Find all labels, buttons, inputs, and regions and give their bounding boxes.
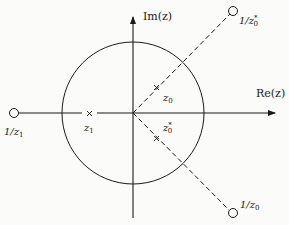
zero-inv-z0-conj-o-icon: [229, 7, 238, 16]
label-inv-z0-conj: 1/z*0: [239, 14, 258, 28]
ray-to-inv-z0: [133, 113, 229, 210]
label-z1: z1: [83, 122, 94, 135]
label-inv-z0: 1/z0: [240, 199, 259, 212]
label-inv-z1: 1/z1: [4, 126, 23, 139]
im-axis-label: Im(z): [143, 10, 172, 23]
zero-inv-z0-o-icon: [229, 209, 238, 218]
zero-inv-z1-o-icon: [10, 109, 19, 118]
ray-to-inv-z0-conj: [133, 14, 230, 113]
label-z0: z0: [162, 92, 173, 105]
pole-z1-x-icon: [87, 111, 92, 116]
label-z0-conj: z*0: [162, 121, 172, 135]
pole-zero-diagram: Im(z) Re(z) z0 z*0 z1 1/z*0 1/z0 1/z1: [0, 0, 289, 225]
re-axis-label: Re(z): [256, 87, 285, 100]
